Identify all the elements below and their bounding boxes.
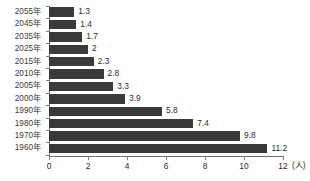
bar-row: 3.3	[49, 80, 301, 92]
plot-area: 1.31.41.722.32.83.33.95.87.49.811.202468…	[49, 6, 301, 155]
category-label: 2000年	[0, 93, 44, 105]
bar-value-label: 1.4	[80, 19, 92, 31]
category-label: 2015年	[0, 56, 44, 68]
bar-row: 7.4	[49, 118, 301, 130]
value-tick	[127, 157, 128, 160]
bar-value-label: 3.3	[117, 81, 129, 93]
category-tick	[46, 155, 49, 156]
value-tick	[205, 157, 206, 160]
bar-value-label: 5.8	[166, 105, 178, 117]
bar	[49, 144, 267, 153]
category-label: 2055年	[0, 6, 44, 18]
value-tick-label: 4	[125, 161, 130, 171]
value-tick	[244, 157, 245, 160]
category-label: 1970年	[0, 130, 44, 142]
value-tick-label: 2	[86, 161, 91, 171]
value-tick	[49, 157, 50, 160]
bar	[49, 119, 193, 128]
footnote	[2, 175, 308, 181]
bar-value-label: 1.7	[86, 31, 98, 43]
bar	[49, 94, 125, 103]
bar-row: 11.2	[49, 142, 301, 154]
bar-row: 1.4	[49, 18, 301, 30]
bar-row: 2	[49, 43, 301, 55]
bar	[49, 7, 74, 16]
category-label: 2025年	[0, 43, 44, 55]
value-tick	[166, 157, 167, 160]
axis-unit-label: (人)	[292, 161, 305, 171]
bar-row: 2.3	[49, 56, 301, 68]
bar	[49, 57, 94, 66]
bar	[49, 107, 162, 116]
bar-value-label: 9.8	[244, 130, 256, 142]
category-label: 2035年	[0, 31, 44, 43]
bar-value-label: 1.3	[78, 6, 90, 18]
bar	[49, 69, 104, 78]
value-tick-label: 6	[164, 161, 169, 171]
value-tick-label: 12	[278, 161, 287, 171]
value-tick-label: 0	[47, 161, 52, 171]
category-label: 1960年	[0, 142, 44, 154]
bar-value-label: 3.9	[129, 93, 141, 105]
bar	[49, 20, 76, 29]
bar-row: 1.3	[49, 6, 301, 18]
value-tick-label: 10	[239, 161, 248, 171]
bar	[49, 32, 82, 41]
bar	[49, 82, 113, 91]
bar-row: 2.8	[49, 68, 301, 80]
category-label: 2005年	[0, 80, 44, 92]
value-tick	[88, 157, 89, 160]
bar-value-label: 2.3	[98, 56, 110, 68]
bar-value-label: 7.4	[197, 118, 209, 130]
bar	[49, 45, 88, 54]
category-label: 1990年	[0, 105, 44, 117]
category-label: 1980年	[0, 118, 44, 130]
bar-value-label: 11.2	[271, 143, 287, 155]
bar-value-label: 2	[92, 43, 97, 55]
bar	[49, 131, 240, 140]
value-tick	[283, 157, 284, 160]
category-label: 2045年	[0, 18, 44, 30]
value-tick-label: 8	[203, 161, 208, 171]
bar-row: 5.8	[49, 105, 301, 117]
bar-row: 3.9	[49, 93, 301, 105]
bar-row: 1.7	[49, 31, 301, 43]
bar-value-label: 2.8	[108, 68, 120, 80]
category-axis-labels: 2055年2045年2035年2025年2015年2010年2005年2000年…	[0, 6, 44, 155]
category-label: 2010年	[0, 68, 44, 80]
bar-chart: 2055年2045年2035年2025年2015年2010年2005年2000年…	[0, 0, 310, 181]
bar-row: 9.8	[49, 130, 301, 142]
